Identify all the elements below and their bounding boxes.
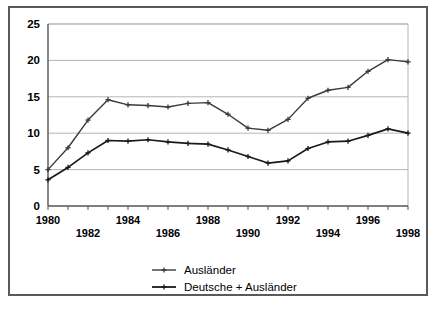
- x-tick-label-1988: 1988: [196, 214, 220, 226]
- legend-item-0: Ausländer: [152, 264, 236, 276]
- x-tick-label-1984: 1984: [116, 214, 141, 226]
- series-deutsche-ausl-nder: [45, 126, 410, 182]
- data-series: [45, 57, 410, 182]
- x-tick-label-1980: 1980: [36, 214, 60, 226]
- y-tick-label-5: 5: [34, 164, 41, 176]
- line-chart: 0510152025 19801984198819921996198219861…: [0, 0, 441, 315]
- x-tick-label-1990: 1990: [236, 227, 260, 239]
- x-tick-label-1996: 1996: [356, 214, 380, 226]
- x-tick-label-1992: 1992: [276, 214, 300, 226]
- y-tick-label-25: 25: [27, 18, 40, 30]
- series-ausl-nder: [45, 57, 410, 172]
- x-axis-tick-labels: 1980198419881992199619821986199019941998: [36, 214, 420, 239]
- legend-item-1: Deutsche + Ausländer: [152, 281, 297, 293]
- y-tick-label-15: 15: [27, 91, 40, 103]
- legend-label-1: Deutsche + Ausländer: [184, 281, 297, 293]
- chart-figure: 0510152025 19801984198819921996198219861…: [0, 0, 441, 315]
- series-line-1: [48, 129, 408, 180]
- legend-label-0: Ausländer: [184, 264, 236, 276]
- x-tick-label-1986: 1986: [156, 227, 180, 239]
- chart-legend: AusländerDeutsche + Ausländer: [152, 264, 297, 293]
- y-tick-label-0: 0: [34, 200, 40, 212]
- y-axis-tick-labels: 0510152025: [27, 18, 40, 212]
- x-tick-label-1994: 1994: [316, 227, 341, 239]
- x-tick-label-1998: 1998: [396, 227, 420, 239]
- y-tick-label-10: 10: [27, 127, 40, 139]
- x-tick-label-1982: 1982: [76, 227, 100, 239]
- y-tick-label-20: 20: [27, 54, 40, 66]
